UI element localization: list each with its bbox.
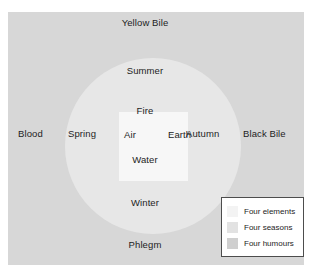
legend-item-elements: Four elements (227, 203, 299, 219)
season-label-winter: Winter (131, 197, 159, 208)
element-label-air: Air (124, 129, 136, 140)
season-label-summer: Summer (127, 65, 164, 76)
legend-label-humours: Four humours (244, 239, 294, 248)
legend-label-seasons: Four seasons (244, 223, 292, 232)
legend-swatch-seasons (227, 222, 238, 233)
humours-seasons-elements-diagram: Yellow Bile Blood Black Bile Phlegm Summ… (0, 0, 312, 269)
element-label-fire: Fire (137, 105, 154, 116)
legend: Four elements Four seasons Four humours (221, 197, 304, 257)
legend-item-seasons: Four seasons (227, 219, 299, 235)
legend-label-elements: Four elements (244, 207, 295, 216)
humour-label-black-bile: Black Bile (243, 128, 286, 139)
element-label-earth: Earth (168, 129, 191, 140)
season-label-spring: Spring (68, 128, 96, 139)
humour-label-yellow-bile: Yellow Bile (122, 17, 169, 28)
legend-item-humours: Four humours (227, 235, 299, 251)
element-label-water: Water (132, 154, 157, 165)
legend-swatch-elements (227, 206, 238, 217)
four-elements-region (119, 112, 188, 181)
humour-label-phlegm: Phlegm (129, 239, 162, 250)
legend-swatch-humours (227, 238, 238, 249)
humour-label-blood: Blood (18, 128, 43, 139)
